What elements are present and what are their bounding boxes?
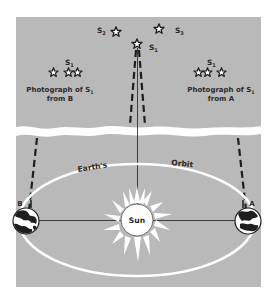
photo-a-caption-line2: from A — [208, 95, 235, 103]
earth-label-b: B — [17, 200, 22, 208]
photo-b-caption-line1: Photograph of S1 — [26, 86, 93, 95]
photo-b-caption-line2: from B — [47, 95, 73, 103]
earth-label-a: A — [249, 200, 255, 208]
sun-label: Sun — [129, 216, 145, 225]
parallax-diagram: Earth's Orbit Sun B — [0, 0, 274, 303]
photo-a-caption-line1: Photograph of S1 — [187, 86, 254, 95]
